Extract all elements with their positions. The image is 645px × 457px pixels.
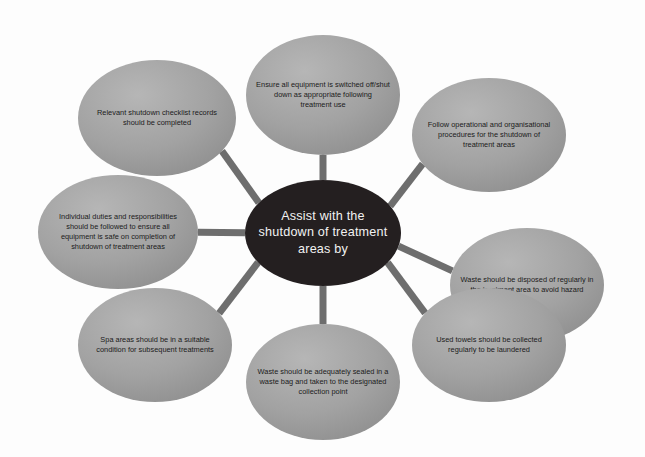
node-waste-sealed-in-bag[interactable]: Waste should be adequately sealed in awa… xyxy=(246,324,400,440)
spoke-connector-waste-disposed-regularly xyxy=(399,246,453,271)
node-label-individual-duties: Individual duties and responsibilitiessh… xyxy=(59,212,177,252)
node-used-towels-collected[interactable]: Used towels should be collectedregularly… xyxy=(412,288,566,402)
node-equipment-switched-off[interactable]: Ensure all equipment is switched off/shu… xyxy=(246,35,400,155)
node-label-spa-areas-suitable: Spa areas should be in a suitableconditi… xyxy=(96,335,214,354)
node-operational-procedures[interactable]: Follow operational and organisationalpro… xyxy=(412,78,566,192)
node-label-used-towels-collected: Used towels should be collectedregularly… xyxy=(436,335,542,354)
spoke-connector-used-towels-collected xyxy=(388,263,426,313)
spoke-connector-spa-areas-suitable xyxy=(219,262,258,313)
spoke-connector-shutdown-checklist-records xyxy=(222,151,259,203)
node-shutdown-checklist-records[interactable]: Relevant shutdown checklist recordsshoul… xyxy=(78,60,236,176)
spoke-connector-operational-procedures xyxy=(390,164,423,206)
diagram-canvas: Ensure all equipment is switched off/shu… xyxy=(0,0,645,457)
node-spa-areas-suitable[interactable]: Spa areas should be in a suitableconditi… xyxy=(78,288,232,402)
center-node[interactable]: Assist with theshutdown of treatmentarea… xyxy=(245,180,401,286)
spider-diagram: Ensure all equipment is switched off/shu… xyxy=(0,0,645,457)
node-individual-duties[interactable]: Individual duties and responsibilitiessh… xyxy=(38,175,198,289)
